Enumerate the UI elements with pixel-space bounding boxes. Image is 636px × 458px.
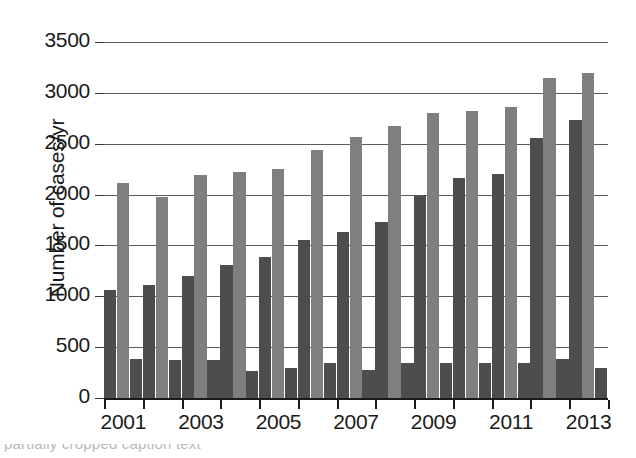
- bar-2011-series-3-dark: [518, 363, 530, 398]
- bar-2013-series-3-dark: [595, 368, 607, 399]
- bar-2005-series-1-dark: [259, 257, 271, 398]
- bar-2008-series-1-dark: [375, 222, 387, 398]
- bar-2009-series-2-light: [427, 113, 439, 398]
- y-tick-label-0: 0: [0, 384, 90, 408]
- y-tick-mark-1000: [95, 296, 104, 297]
- bar-2006-series-3-dark: [324, 363, 336, 398]
- bar-2012-series-1-dark: [530, 138, 542, 398]
- bar-2007-series-3-dark: [362, 370, 374, 398]
- x-tick-mark-8: [414, 400, 416, 409]
- y-tick-label-1000: 1000: [0, 282, 90, 306]
- bar-2012-series-2-light: [543, 78, 555, 398]
- x-tick-mark-2: [182, 400, 184, 409]
- bar-2001-series-2-light: [117, 183, 129, 398]
- bar-2005-series-2-light: [272, 169, 284, 398]
- y-tick-mark-2000: [95, 195, 104, 196]
- bar-2003-series-1-dark: [182, 276, 194, 398]
- bar-2004-series-2-light: [233, 172, 245, 398]
- x-tick-mark-9: [453, 400, 455, 409]
- bar-2002-series-2-light: [156, 197, 168, 398]
- bar-2007-series-1-dark: [337, 232, 349, 398]
- x-tick-mark-10: [492, 400, 494, 409]
- x-tick-mark-3: [220, 400, 222, 409]
- x-tick-label-2003: 2003: [161, 410, 241, 434]
- chart-figure: Number of cases/yr 050010001500200025003…: [0, 0, 636, 458]
- y-tick-label-3000: 3000: [0, 79, 90, 103]
- bar-series-group: [104, 42, 608, 398]
- x-tick-mark-12: [569, 400, 571, 409]
- bar-2002-series-3-dark: [169, 360, 181, 398]
- bar-2006-series-1-dark: [298, 240, 310, 398]
- y-tick-mark-500: [95, 347, 104, 348]
- x-tick-mark-6: [337, 400, 339, 409]
- x-tick-mark-11: [530, 400, 532, 409]
- x-tick-mark-1: [143, 400, 145, 409]
- bar-2005-series-3-dark: [285, 368, 297, 399]
- bar-2006-series-2-light: [311, 150, 323, 398]
- y-tick-mark-3000: [95, 93, 104, 94]
- x-tick-label-2009: 2009: [394, 410, 474, 434]
- bar-2007-series-2-light: [350, 137, 362, 398]
- x-tick-label-2011: 2011: [471, 410, 551, 434]
- y-tick-label-500: 500: [0, 333, 90, 357]
- bar-2012-series-3-dark: [556, 359, 568, 398]
- bar-2010-series-3-dark: [479, 363, 491, 398]
- bar-2009-series-1-dark: [414, 196, 426, 398]
- bar-2008-series-2-light: [388, 126, 400, 398]
- bar-2009-series-3-dark: [440, 363, 452, 398]
- bar-2013-series-2-light: [582, 73, 594, 398]
- x-tick-label-2007: 2007: [316, 410, 396, 434]
- bar-2008-series-3-dark: [401, 363, 413, 398]
- x-tick-label-2013: 2013: [549, 410, 629, 434]
- y-tick-label-2000: 2000: [0, 181, 90, 205]
- bar-2004-series-1-dark: [220, 265, 232, 398]
- y-tick-label-2500: 2500: [0, 130, 90, 154]
- y-tick-mark-2500: [95, 144, 104, 145]
- plot-area: [104, 42, 608, 398]
- y-tick-mark-3500: [95, 42, 104, 43]
- bar-2003-series-2-light: [194, 175, 206, 398]
- x-tick-mark-7: [375, 400, 377, 409]
- y-tick-mark-1500: [95, 245, 104, 246]
- bar-2011-series-2-light: [505, 107, 517, 398]
- bar-2001-series-1-dark: [104, 290, 116, 398]
- bar-2010-series-1-dark: [453, 178, 465, 398]
- cropped-caption-strip: partially cropped caption text: [0, 444, 636, 458]
- x-tick-mark-4: [259, 400, 261, 409]
- y-tick-label-1500: 1500: [0, 231, 90, 255]
- x-tick-label-2001: 2001: [83, 410, 163, 434]
- caption-text: partially cropped caption text: [4, 444, 201, 452]
- bar-2013-series-1-dark: [569, 120, 581, 398]
- bar-2011-series-1-dark: [492, 174, 504, 398]
- x-tick-mark-5: [298, 400, 300, 409]
- x-tick-label-2005: 2005: [238, 410, 318, 434]
- bar-2002-series-1-dark: [143, 285, 155, 398]
- bar-2001-series-3-dark: [130, 359, 142, 398]
- y-tick-mark-0: [95, 398, 104, 399]
- bar-2010-series-2-light: [466, 111, 478, 398]
- x-tick-mark-13: [608, 400, 610, 409]
- bar-2004-series-3-dark: [246, 371, 258, 398]
- bar-2003-series-3-dark: [207, 360, 219, 398]
- x-tick-mark-0: [104, 400, 106, 409]
- y-tick-label-3500: 3500: [0, 28, 90, 52]
